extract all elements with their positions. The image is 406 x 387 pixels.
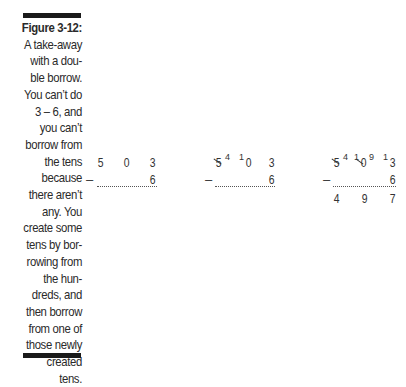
borrow-ones-carry: 1 <box>383 152 388 162</box>
digit-tens: 0 <box>124 155 130 170</box>
borrow-hundreds-new: 4 <box>343 152 348 162</box>
borrow-hundreds-new: 4 <box>225 152 230 162</box>
borrow-tens-carry: 1 <box>239 152 244 162</box>
sum-line <box>333 186 396 187</box>
caption-line: ble borrow. <box>11 70 82 87</box>
digit-ones: 3 <box>150 155 156 170</box>
digit-tens: 0 <box>246 155 252 170</box>
figure-label: Figure 3-12: <box>11 20 82 37</box>
caption-line: the hun- <box>11 271 82 288</box>
subtrahend-digit: 6 <box>390 172 396 187</box>
digit-ones: 3 <box>390 155 396 170</box>
minus-sign: – <box>205 172 212 187</box>
caption-line: because <box>11 170 82 187</box>
borrow-tens-new: 9 <box>369 152 374 162</box>
subtrahend-digit: 6 <box>150 172 156 187</box>
caption-line: dreds, and <box>11 287 82 304</box>
caption-line: there aren’t <box>11 187 82 204</box>
sum-line <box>215 186 275 187</box>
result-ones: 7 <box>390 191 396 206</box>
caption-line: A take-away <box>11 37 82 54</box>
caption-line: 3 – 6, and <box>11 104 82 121</box>
minus-sign: – <box>323 172 330 187</box>
digit-hundreds: 5 <box>98 155 104 170</box>
caption-line: with a dou- <box>11 53 82 70</box>
result-hundreds: 4 <box>334 191 340 206</box>
subtrahend-digit: 6 <box>269 172 275 187</box>
caption-line: then borrow <box>11 304 82 321</box>
caption-line: rowing from <box>11 254 82 271</box>
bottom-rule-bar <box>23 353 81 358</box>
caption-line: from one of <box>11 321 82 338</box>
sum-line <box>97 186 157 187</box>
caption-line: tens. <box>11 371 82 387</box>
caption-line: create some <box>11 220 82 237</box>
digit-ones: 3 <box>269 155 275 170</box>
caption-line: those newly <box>11 337 82 354</box>
caption-line: borrow from <box>11 137 82 154</box>
caption-line: tens by bor- <box>11 237 82 254</box>
result-tens: 9 <box>362 191 368 206</box>
caption-line: the tens <box>11 154 82 171</box>
caption-line: You can’t do <box>11 87 82 104</box>
minus-sign: – <box>86 172 93 187</box>
caption-line: any. You <box>11 204 82 221</box>
top-rule-bar <box>23 13 81 18</box>
caption-line: you can’t <box>11 120 82 137</box>
figure-caption: Figure 3-12: A take-away with a dou- ble… <box>11 20 82 387</box>
